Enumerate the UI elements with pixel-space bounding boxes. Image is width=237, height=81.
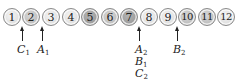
arrow-up-icon xyxy=(177,29,178,41)
coin-number: 9 xyxy=(165,12,172,23)
coin-8: 8 xyxy=(140,8,158,26)
coin-number: 10 xyxy=(181,12,193,22)
coin-number: 12 xyxy=(220,12,232,22)
coin-number: 11 xyxy=(201,12,213,22)
coin-number: 7 xyxy=(126,12,133,23)
coin-number: 3 xyxy=(48,12,55,23)
coin-9: 9 xyxy=(159,8,177,26)
coin-number: 6 xyxy=(107,12,114,23)
coin-12: 12 xyxy=(217,8,235,26)
coin-2: 2 xyxy=(22,8,40,26)
coin-number: 4 xyxy=(68,12,75,23)
coin-11: 11 xyxy=(198,8,216,26)
coin-number: 1 xyxy=(9,12,16,23)
marker-label-b2: B2 xyxy=(173,44,186,59)
marker-label-c2: C2 xyxy=(135,68,148,81)
coin-number: 5 xyxy=(87,12,94,23)
coin-number: 2 xyxy=(28,12,35,23)
marker-label-a1: A1 xyxy=(37,44,49,59)
coin-5: 5 xyxy=(81,8,99,26)
coin-1: 1 xyxy=(3,8,21,26)
arrow-up-icon xyxy=(22,29,23,41)
coin-10: 10 xyxy=(178,8,196,26)
coin-4: 4 xyxy=(62,8,80,26)
arrow-up-icon xyxy=(139,29,140,41)
coin-7: 7 xyxy=(120,8,138,26)
arrow-up-icon xyxy=(42,29,43,41)
coin-6: 6 xyxy=(101,8,119,26)
coin-number: 8 xyxy=(146,12,153,23)
marker-label-c1: C1 xyxy=(17,44,30,59)
coin-3: 3 xyxy=(42,8,60,26)
